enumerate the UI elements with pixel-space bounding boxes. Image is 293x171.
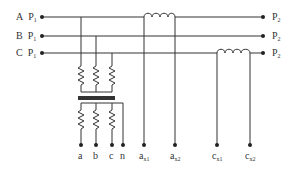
phase-label-a: A P1 xyxy=(16,12,37,25)
terminal-dot-ax2 xyxy=(173,143,177,147)
phase-c-p2-label: P2 xyxy=(272,48,281,61)
terminal-sub: 1 xyxy=(33,53,36,59)
terminal-sub: 2 xyxy=(278,17,281,23)
terminal-sub: x1 xyxy=(216,156,222,162)
phase-b-p2-label: P2 xyxy=(272,31,281,44)
phase-label-b: B P1 xyxy=(16,31,36,44)
vt-terminal-a-label: a xyxy=(78,151,82,161)
terminal-sub: x2 xyxy=(174,156,180,162)
terminal-dot-c-p2 xyxy=(261,51,265,55)
current-coil-a-icon xyxy=(144,13,175,17)
ct-terminal-ax1-label: ax1 xyxy=(139,151,149,164)
ct-terminal-cx1-label: cx1 xyxy=(212,151,222,164)
terminal-dot-b-p1 xyxy=(40,34,44,38)
terminal-dot-cx1 xyxy=(215,143,219,147)
vt-primary-coils-icon xyxy=(78,66,115,92)
terminal-sub: 1 xyxy=(33,36,36,42)
current-coil-c-icon xyxy=(217,49,250,53)
phase-a-p2-label: P2 xyxy=(272,12,281,25)
ct-terminal-ax2-label: ax2 xyxy=(170,151,180,164)
terminal-sub: 2 xyxy=(278,36,281,42)
vt-secondary-coils-icon xyxy=(78,103,123,145)
terminal-sub: x2 xyxy=(249,156,255,162)
vt-terminal-c-label: c xyxy=(109,151,113,161)
terminal-dot-b xyxy=(94,143,98,147)
terminal-dot-b-p2 xyxy=(261,34,265,38)
ct-terminal-cx2-label: cx2 xyxy=(245,151,255,164)
terminal-dot-c xyxy=(110,143,114,147)
terminal-dot-cx2 xyxy=(248,143,252,147)
phase-name: B xyxy=(16,30,23,41)
terminal-sub: 1 xyxy=(34,17,37,23)
phase-name: C xyxy=(16,47,23,58)
terminal-dot-a-p2 xyxy=(261,15,265,19)
terminal-dot-a xyxy=(79,143,83,147)
terminal-sub: 2 xyxy=(278,53,281,59)
circuit-diagram xyxy=(0,0,293,171)
transformer-core-icon xyxy=(78,96,115,100)
phase-name: A xyxy=(16,11,23,22)
phase-label-c: C P1 xyxy=(16,48,36,61)
vt-terminal-b-label: b xyxy=(93,151,98,161)
terminal-dot-ax1 xyxy=(142,143,146,147)
vt-terminal-n-label: n xyxy=(120,151,125,161)
terminal-dot-n xyxy=(121,143,125,147)
terminal-dot-c-p1 xyxy=(40,51,44,55)
terminal-dot-a-p1 xyxy=(40,15,44,19)
terminal-sub: x1 xyxy=(143,156,149,162)
